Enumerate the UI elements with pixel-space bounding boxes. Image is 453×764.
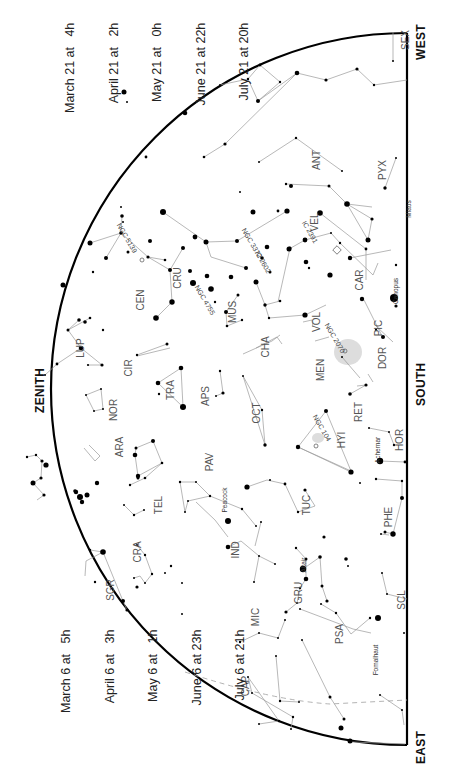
time-entry: July 6 at 21h (233, 630, 248, 713)
star-name-label: Peacock (221, 488, 228, 513)
constellation-label: CIR (123, 359, 134, 376)
constellation-label: DOR (377, 347, 388, 369)
constellation-label: TUC (301, 495, 312, 516)
constellation-label: APS (200, 386, 211, 406)
time-table-bottom: March 6 at 5h April 6 at 3h May 6 at 1h … (30, 630, 262, 713)
time-entry: June 21 at 22h (194, 23, 209, 113)
constellation-label: SGR (105, 579, 116, 601)
constellation-label: OCT (251, 402, 262, 423)
star-name-label: Altair (300, 558, 307, 573)
time-entry: July 21 at 20h (237, 23, 252, 113)
constellation-label: CRU (172, 267, 183, 289)
constellation-label: CRA (132, 541, 143, 562)
constellation-label: PSA (334, 624, 345, 644)
constellation-label: ANT (311, 150, 322, 170)
constellation-label: NOR (108, 399, 119, 421)
constellation-label: GRU (293, 582, 304, 604)
direction-east: EAST (414, 731, 428, 764)
constellation-label: TRA (165, 380, 176, 400)
time-entry: June 6 at 23h (190, 630, 205, 713)
constellation-label: SEX (400, 30, 411, 50)
direction-west: WEST (414, 24, 428, 60)
constellation-label: RET (353, 402, 364, 422)
constellation-label: LUP (75, 338, 86, 357)
constellation-label: MUS (227, 301, 238, 323)
direction-south: SOUTH (414, 363, 428, 407)
constellation-label: ARA (114, 437, 125, 458)
constellation-label: PHE (383, 507, 394, 528)
constellation-label: CHA (260, 336, 271, 357)
direction-zenith: ZENITH (33, 368, 47, 413)
constellation-label: VOL (311, 312, 322, 332)
constellation-label: MIC (250, 608, 261, 626)
star-name-label: Achernar (374, 437, 381, 463)
time-entry: March 21 at 4h (63, 23, 78, 113)
constellation-label: PAV (204, 453, 215, 472)
constellation-label: PIC (373, 320, 384, 337)
constellation-label: IND (230, 541, 241, 558)
time-entry: April 21 at 2h (107, 23, 122, 113)
constellation-label: HOR (394, 429, 405, 451)
constellation-label: MEN (315, 359, 326, 381)
time-entry: April 6 at 3h (103, 630, 118, 713)
constellation-label: HYI (336, 432, 347, 449)
constellation-label: CAR (354, 269, 365, 290)
constellation-label: CEN (135, 289, 146, 310)
constellation-label: SCL (396, 590, 407, 609)
time-entry: May 21 at 0h (150, 23, 165, 113)
star-name-label: Canopus (392, 278, 399, 304)
star-name-label: Fomalhaut (372, 645, 379, 676)
star-name-label: Miaos (405, 200, 412, 217)
constellation-label: TEL (153, 496, 164, 514)
constellation-label: PYX (377, 160, 388, 180)
time-entry: March 6 at 5h (59, 630, 74, 713)
time-entry: May 6 at 1h (146, 630, 161, 713)
time-table-top: March 21 at 4h April 21 at 2h May 21 at … (34, 23, 266, 113)
